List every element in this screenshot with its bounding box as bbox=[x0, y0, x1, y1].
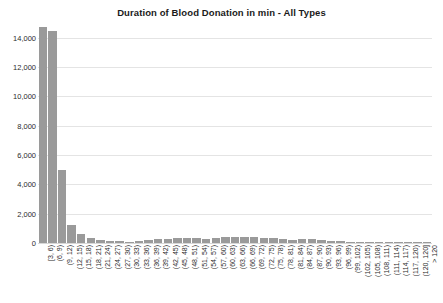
bar bbox=[202, 239, 210, 243]
x-axis-tick-label: (108, 111) bbox=[382, 245, 391, 276]
x-axis-tick-label: (9, 12) bbox=[65, 245, 74, 265]
x-axis-tick-label: (45, 48) bbox=[180, 245, 189, 269]
bar bbox=[413, 242, 421, 243]
y-axis-tick-label: 10,000 bbox=[0, 92, 36, 101]
bar bbox=[96, 240, 104, 243]
bar bbox=[144, 240, 152, 243]
bar bbox=[365, 242, 373, 243]
bar bbox=[39, 27, 47, 243]
bar bbox=[58, 170, 66, 243]
x-axis-tick-label: (30, 33) bbox=[132, 245, 141, 269]
bar bbox=[87, 238, 95, 243]
bar bbox=[221, 237, 229, 243]
bar bbox=[404, 242, 412, 243]
x-axis-tick-label: (63, 66) bbox=[238, 245, 247, 269]
bar bbox=[298, 239, 306, 243]
bar bbox=[356, 242, 364, 243]
bar bbox=[48, 31, 56, 243]
bar bbox=[77, 234, 85, 243]
chart-container: Duration of Blood Donation in min - All … bbox=[0, 0, 443, 303]
bar bbox=[106, 241, 114, 243]
y-axis: 02,0004,0006,0008,00010,00012,00014,000 bbox=[0, 20, 36, 243]
x-axis-tick-label: > 120 bbox=[430, 245, 439, 263]
bar bbox=[125, 242, 133, 243]
x-axis-tick-label: (84, 87) bbox=[305, 245, 314, 269]
x-axis-tick-label: (111, 114) bbox=[392, 245, 401, 275]
bar bbox=[279, 239, 287, 243]
y-axis-tick-label: 2,000 bbox=[0, 209, 36, 218]
bar bbox=[173, 238, 181, 243]
x-axis-tick-label: (15, 18) bbox=[84, 245, 93, 269]
x-axis-tick-label: (72, 75) bbox=[267, 245, 276, 269]
x-axis-tick-label: (54, 57) bbox=[209, 245, 218, 269]
x-axis-tick-label: (93, 96) bbox=[334, 245, 343, 269]
bar bbox=[346, 242, 354, 243]
x-axis-tick-label: (27, 30) bbox=[123, 245, 132, 269]
x-axis-tick-label: (66, 69) bbox=[248, 245, 257, 269]
bar bbox=[385, 242, 393, 243]
bar bbox=[327, 241, 335, 243]
x-axis-tick-label: (18, 21) bbox=[94, 245, 103, 269]
x-axis-tick-label: (12, 15) bbox=[75, 245, 84, 269]
x-axis: [3, 6)(6, 9)(9, 12)(12, 15)(15, 18)(18, … bbox=[38, 245, 432, 303]
bar bbox=[67, 225, 75, 243]
x-axis-tick-label: (99, 102) bbox=[353, 245, 362, 273]
x-axis-tick-label: [3, 6) bbox=[46, 245, 55, 261]
x-axis-tick-label: (78, 81) bbox=[286, 245, 295, 269]
chart-title: Duration of Blood Donation in min - All … bbox=[0, 7, 443, 18]
bar bbox=[240, 237, 248, 243]
y-axis-tick-label: 12,000 bbox=[0, 62, 36, 71]
bar bbox=[250, 237, 258, 243]
x-axis-tick-label: (96, 99) bbox=[344, 245, 353, 269]
y-axis-tick-label: 4,000 bbox=[0, 180, 36, 189]
x-axis-tick-label: (21, 24) bbox=[103, 245, 112, 269]
bar bbox=[336, 241, 344, 243]
x-axis-tick-label: (42, 45) bbox=[171, 245, 180, 269]
y-axis-tick-label: 6,000 bbox=[0, 150, 36, 159]
x-axis-tick-label: (39, 42) bbox=[161, 245, 170, 269]
x-axis-tick-label: (69, 72) bbox=[257, 245, 266, 269]
bar bbox=[154, 239, 162, 243]
bar bbox=[269, 238, 277, 243]
bar bbox=[164, 239, 172, 243]
x-axis-tick-label: (57, 60) bbox=[219, 245, 228, 269]
plot-area bbox=[38, 20, 432, 243]
x-axis-tick-label: (120, 120] bbox=[421, 245, 430, 277]
bar bbox=[135, 241, 143, 243]
bar bbox=[394, 242, 402, 243]
bar bbox=[288, 240, 296, 243]
bar bbox=[260, 238, 268, 243]
x-axis-tick-label: (51, 54) bbox=[200, 245, 209, 269]
y-axis-tick-label: 14,000 bbox=[0, 33, 36, 42]
y-axis-tick-label: 8,000 bbox=[0, 121, 36, 130]
bar bbox=[212, 238, 220, 243]
x-axis-tick-label: (114, 117) bbox=[401, 245, 410, 276]
x-axis-tick-label: (90, 93) bbox=[324, 245, 333, 269]
x-axis-tick-label: (24, 27) bbox=[113, 245, 122, 269]
bar bbox=[423, 242, 431, 243]
gridline bbox=[38, 243, 432, 244]
x-axis-tick-label: (75, 78) bbox=[276, 245, 285, 269]
bar bbox=[183, 238, 191, 243]
bar bbox=[317, 240, 325, 243]
x-axis-tick-label: (105, 108) bbox=[373, 245, 382, 277]
bar bbox=[231, 237, 239, 243]
x-axis-tick-label: (36, 39) bbox=[152, 245, 161, 269]
x-axis-tick-label: (102, 105) bbox=[363, 245, 372, 277]
x-axis-tick-label: (87, 90) bbox=[315, 245, 324, 269]
bar-series bbox=[38, 20, 432, 243]
y-axis-tick-label: 0 bbox=[0, 239, 36, 248]
x-axis-tick-label: (60, 63) bbox=[228, 245, 237, 269]
x-axis-tick-label: (33, 36) bbox=[142, 245, 151, 269]
x-axis-tick-label: (117, 120) bbox=[411, 245, 420, 276]
bar bbox=[308, 239, 316, 243]
bar bbox=[115, 241, 123, 243]
bar bbox=[192, 238, 200, 243]
x-axis-tick-label: (48, 51) bbox=[190, 245, 199, 269]
bar bbox=[375, 242, 383, 243]
x-axis-tick-label: (81, 84) bbox=[296, 245, 305, 269]
x-axis-tick-label: (6, 9) bbox=[55, 245, 64, 261]
